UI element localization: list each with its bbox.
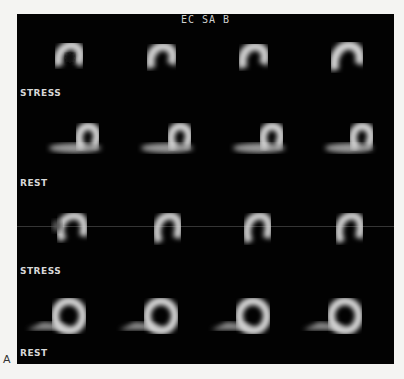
stress-slice-8 bbox=[315, 196, 375, 256]
stress-slice-4 bbox=[315, 26, 375, 86]
figure-panel-label: A bbox=[3, 353, 11, 366]
row-label-stress-1: STRESS bbox=[20, 88, 61, 98]
stress-slice-2 bbox=[129, 26, 189, 86]
rest-slice-7 bbox=[207, 286, 287, 346]
stress-slice-3 bbox=[221, 26, 281, 86]
stress-slice-6 bbox=[133, 196, 193, 256]
spect-image-panel: EC SA B STRESS REST bbox=[17, 14, 394, 364]
rest-slice-6 bbox=[115, 286, 195, 346]
rest-slice-5 bbox=[23, 286, 103, 346]
row-label-rest-1: REST bbox=[20, 178, 48, 188]
rest-slice-8 bbox=[299, 286, 379, 346]
rest-slice-2 bbox=[137, 106, 207, 166]
row-label-rest-2: REST bbox=[20, 348, 48, 358]
rest-slice-4 bbox=[321, 106, 391, 166]
rest-slice-3 bbox=[229, 106, 299, 166]
row-label-stress-2: STRESS bbox=[20, 266, 61, 276]
image-title: EC SA B bbox=[17, 14, 394, 26]
stress-slice-7 bbox=[223, 196, 283, 256]
stress-slice-5 bbox=[39, 196, 99, 256]
stress-slice-1 bbox=[37, 26, 97, 86]
rest-slice-1 bbox=[45, 106, 115, 166]
